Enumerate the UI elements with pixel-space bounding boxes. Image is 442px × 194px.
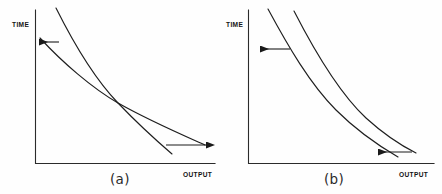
panel-a-group: TIME OUTPUT (a) [12,8,215,187]
panel-b-group: TIME OUTPUT (b) [226,9,434,187]
panel-b-curve-outer [268,9,398,157]
panel-b-y-axis-label: TIME [226,21,243,28]
panel-b-x-axis-label: OUTPUT [399,171,428,178]
figure-container: TIME OUTPUT (a) TIME OUTPUT (b) [0,0,442,194]
panel-a-curve-steep [56,8,172,154]
panel-a-caption: (a) [110,171,130,187]
panel-a-curve-flat [40,38,205,145]
panel-a-y-axis-label: TIME [12,21,29,28]
panel-a-x-axis-label: OUTPUT [183,171,212,178]
panel-b-caption: (b) [324,171,344,187]
figure-svg-canvas: TIME OUTPUT (a) TIME OUTPUT (b) [0,0,442,194]
panel-b-axes [249,10,435,164]
panel-a-axes [36,10,216,164]
